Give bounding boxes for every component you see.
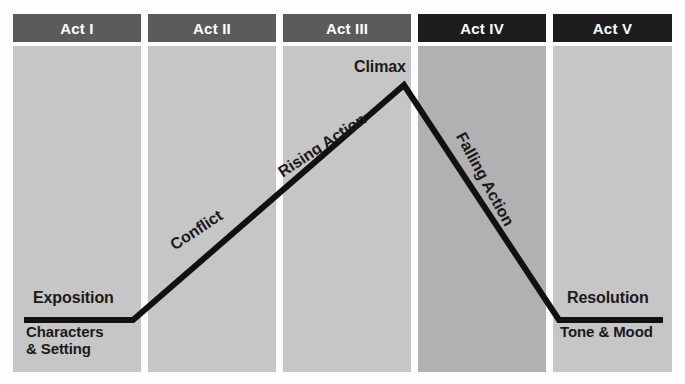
climax-label: Climax [354,58,406,76]
exposition-sublabel-line2: & Setting [26,341,103,358]
act-header-label-3: Act III [326,20,368,37]
act-body-4 [418,46,546,372]
act-header-label-4: Act IV [460,20,504,37]
act-header-label-5: Act V [593,20,632,37]
act-body-3 [283,46,411,372]
act-header-1: Act I [13,14,141,42]
act-header-4: Act IV [418,14,546,42]
exposition-label: Exposition [33,289,114,307]
act-header-3: Act III [283,14,411,42]
act-header-label-1: Act I [60,20,94,37]
act-header-5: Act V [553,14,672,42]
resolution-sublabel: Tone & Mood [560,324,653,341]
act-header-label-2: Act II [193,20,231,37]
act-column-2[interactable]: Act II [148,14,276,372]
act-header-2: Act II [148,14,276,42]
resolution-label: Resolution [567,289,649,307]
exposition-sublabel-line1: Characters [26,324,103,341]
plot-diagram: Act I Act II Act III Act IV Act V Exposi… [0,0,685,384]
act-column-1[interactable]: Act I [13,14,141,372]
act-column-5[interactable]: Act V [553,14,672,372]
exposition-sublabel: Characters & Setting [26,324,103,358]
